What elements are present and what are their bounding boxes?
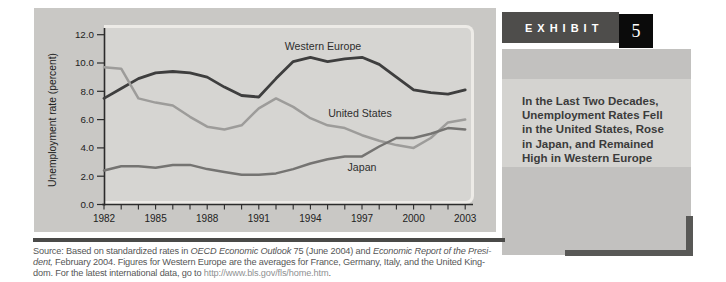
y-tick-label: 8.0 <box>80 86 94 97</box>
sidebar-spacer-top <box>502 49 691 79</box>
line-japan <box>104 128 465 175</box>
source-note: Source: Based on standardized rates in O… <box>33 246 593 280</box>
x-tick-label: 1997 <box>351 213 374 224</box>
x-tick-label: 2003 <box>454 213 477 224</box>
line-western-europe <box>104 57 465 98</box>
caption-line: in the United States, Rose <box>522 123 664 135</box>
exhibit-sidebar: EXHIBIT 5 In the Last Two Decades,Unempl… <box>500 0 726 282</box>
caption-line: High in Western Europe <box>522 152 652 164</box>
caption-line: in Japan, and Remained <box>522 138 654 150</box>
source-text-segment: dent, <box>33 257 53 267</box>
exhibit-header-bar: EXHIBIT <box>502 12 619 43</box>
y-tick-label: 4.0 <box>80 142 94 153</box>
series-label-united-states: United States <box>328 107 392 119</box>
x-tick-label: 1985 <box>144 213 167 224</box>
source-text-segment: OECD Economic Outlook <box>191 246 292 256</box>
y-axis-title: Unemployment rate (percent) <box>47 53 58 187</box>
x-tick-label: 1991 <box>248 213 271 224</box>
chart-panel: 0.02.04.06.08.010.012.019821985198819911… <box>34 8 496 232</box>
x-tick-label: 1994 <box>299 213 322 224</box>
unemployment-line-chart: 0.02.04.06.08.010.012.019821985198819911… <box>34 8 496 232</box>
textbook-exhibit-page: 0.02.04.06.08.010.012.019821985198819911… <box>0 0 726 282</box>
y-tick-label: 0.0 <box>80 199 94 210</box>
line-united-states <box>104 67 465 148</box>
divider-rule <box>33 238 505 242</box>
y-tick-label: 6.0 <box>80 114 94 125</box>
x-tick-label: 1988 <box>196 213 219 224</box>
y-tick-label: 12.0 <box>75 29 95 40</box>
source-text-segment: February 2004. Figures for Western Europ… <box>53 257 485 267</box>
exhibit-number: 5 <box>632 21 641 42</box>
caption-line: Unemployment Rates Fell <box>522 109 663 121</box>
series-label-western-europe: Western Europe <box>285 40 361 52</box>
sidebar-spacer-bottom <box>502 167 691 255</box>
series-label-japan: Japan <box>348 161 377 173</box>
y-tick-label: 10.0 <box>75 57 95 68</box>
source-text-segment: . <box>328 268 330 278</box>
caption-line: In the Last Two Decades, <box>522 95 659 107</box>
source-text-segment: dom. For the latest international data, … <box>33 268 204 278</box>
source-text-segment: 75 (June 2004) and <box>291 246 373 256</box>
x-tick-label: 2000 <box>402 213 425 224</box>
y-tick-label: 2.0 <box>80 171 94 182</box>
exhibit-number-box: 5 <box>619 14 653 48</box>
x-tick-label: 1982 <box>93 213 116 224</box>
source-text-segment: Source: Based on standardized rates in <box>33 246 191 256</box>
exhibit-label: EXHIBIT <box>525 22 603 34</box>
source-url-text: http://www.bls.gov/fls/home.htm <box>204 268 329 278</box>
source-text-segment: Economic Report of the Presi- <box>373 246 491 256</box>
exhibit-caption: In the Last Two Decades,Unemployment Rat… <box>502 79 691 167</box>
